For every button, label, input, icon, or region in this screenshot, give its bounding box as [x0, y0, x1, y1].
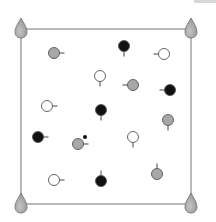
small-dot	[83, 135, 87, 139]
particle-circle	[95, 71, 106, 82]
particle-black	[160, 85, 176, 96]
particle-gray	[152, 164, 163, 180]
particle-gray	[49, 48, 65, 59]
particle-black	[119, 41, 130, 57]
particle-circle	[96, 176, 107, 187]
particle-white	[49, 175, 65, 186]
particle-circle	[159, 49, 170, 60]
particle-white	[128, 132, 139, 148]
particle-circle	[33, 132, 44, 143]
particle-circle	[42, 101, 53, 112]
particle-black	[96, 171, 107, 187]
particle-black	[33, 132, 49, 143]
particle-circle	[96, 105, 107, 116]
particle-circle	[128, 132, 139, 143]
particle-white	[42, 101, 58, 112]
particle-gray	[73, 139, 89, 150]
particle-circle	[73, 139, 84, 150]
particle-circle	[119, 41, 130, 52]
corner-pin-icon	[185, 18, 197, 38]
particle-circle	[163, 115, 174, 126]
corner-pin-icon	[15, 18, 27, 38]
particle-circle	[49, 175, 60, 186]
particle-circle	[165, 85, 176, 96]
corner-pin-icon	[15, 193, 27, 213]
particle-white	[95, 71, 106, 87]
particle-box-diagram	[0, 0, 216, 222]
particle-circle	[49, 48, 60, 59]
particle-white	[154, 49, 170, 60]
particle-circle	[152, 169, 163, 180]
particle-black	[96, 105, 107, 121]
particle-gray	[163, 115, 174, 131]
diagram-canvas	[0, 0, 216, 222]
corner-pin-icon	[185, 193, 197, 213]
particle-gray	[123, 80, 139, 91]
particle-circle	[128, 80, 139, 91]
